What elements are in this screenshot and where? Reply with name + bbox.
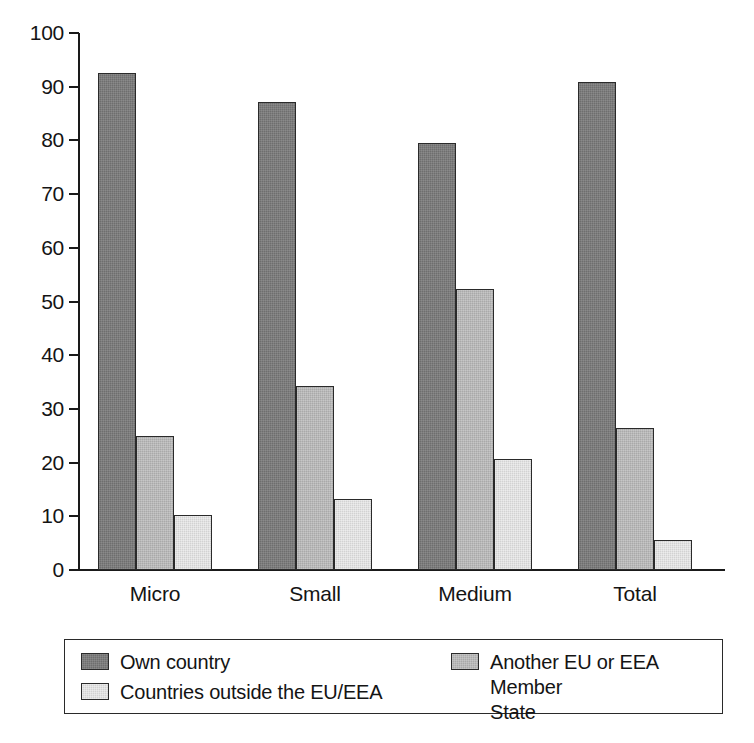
bar [456,289,494,570]
y-axis-tick-label: 100 [0,22,64,43]
y-axis-tick [69,139,79,141]
bar [418,143,456,570]
legend: Own countryAnother EU or EEA Member Stat… [64,639,723,714]
y-axis-tick [69,247,79,249]
y-axis-tick-label: 90 [0,76,64,97]
y-axis-tick [69,408,79,410]
y-axis-tick [69,515,79,517]
y-axis-tick-label: 20 [0,452,64,473]
bar [136,436,174,570]
y-axis-tick-label: 70 [0,183,64,204]
x-axis-label-medium: Medium [405,582,545,606]
bar [258,102,296,570]
y-axis-tick-label: 60 [0,237,64,258]
y-axis-tick-label: 40 [0,344,64,365]
bar [578,82,616,570]
legend-swatch-icon [451,653,479,670]
legend-item: Countries outside the EU/EEA [81,680,382,705]
legend-item: Another EU or EEA Member State [451,650,709,725]
legend-item: Own country [81,650,230,675]
bar [334,499,372,570]
legend-label: Own country [120,650,230,675]
y-axis-tick [69,32,79,34]
y-axis-tick-label: 0 [0,559,64,580]
y-axis-tick-label: 30 [0,398,64,419]
legend-swatch-icon [81,653,109,670]
y-axis-tick [69,193,79,195]
bar [98,73,136,570]
y-axis-tick [69,569,79,571]
bars-layer [80,33,725,570]
x-axis-label-total: Total [565,582,705,606]
bar [654,540,692,570]
y-axis-tick [69,462,79,464]
y-axis-tick [69,301,79,303]
y-axis-tick [69,86,79,88]
y-axis-tick-label: 10 [0,505,64,526]
y-axis-tick-label: 50 [0,291,64,312]
y-axis-tick [69,354,79,356]
legend-swatch-icon [81,683,109,700]
bar-chart: 1009080706050403020100 MicroSmallMediumT… [0,0,754,743]
bar [494,459,532,570]
legend-label: Countries outside the EU/EEA [120,680,382,705]
bar [616,428,654,570]
x-axis-label-micro: Micro [85,582,225,606]
bar [296,386,334,570]
bar [174,515,212,570]
y-axis-tick-label: 80 [0,129,64,150]
x-axis-label-small: Small [245,582,385,606]
legend-label: Another EU or EEA Member State [490,650,709,725]
